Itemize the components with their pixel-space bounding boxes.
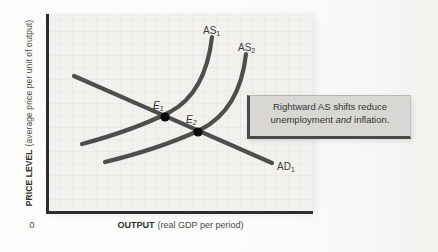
as-ad-diagram: PRICE LEVEL(average price per unit of ou… <box>0 0 438 252</box>
callout-line2-emphasis: and <box>336 114 352 125</box>
callout-line1: Rightward AS shifts reduce <box>273 101 387 112</box>
equilibrium-dot-e2 <box>193 127 202 136</box>
callout-line2-post: inflation. <box>351 114 389 125</box>
ad1-curve <box>74 76 272 163</box>
equilibrium-dot-e1 <box>160 112 169 121</box>
as2-curve-label: AS2 <box>238 42 255 54</box>
ad1-curve-label: AD1 <box>277 161 295 173</box>
as1-curve-label: AS1 <box>203 25 220 37</box>
equilibrium-e1-label: E1 <box>153 100 164 112</box>
callout-line2-pre: unemployment <box>271 114 336 125</box>
annotation-callout: Rightward AS shifts reduce unemployment … <box>247 95 411 139</box>
equilibrium-e2-label: E2 <box>186 114 197 126</box>
